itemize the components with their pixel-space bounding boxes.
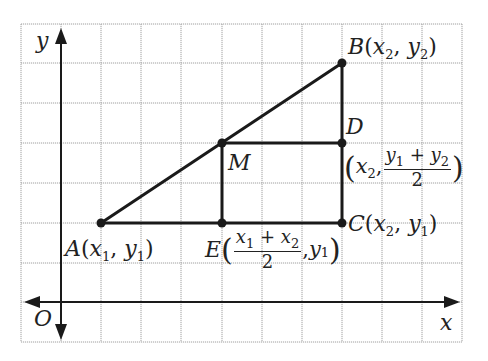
y-axis-label: y bbox=[36, 30, 48, 52]
paren: ( bbox=[344, 150, 356, 185]
var: x bbox=[373, 211, 385, 236]
comma: , bbox=[393, 34, 400, 59]
paren: ) bbox=[145, 236, 154, 261]
paren: ( bbox=[221, 232, 233, 267]
y-axis-arrow-down-icon bbox=[55, 324, 67, 340]
fraction: y1 + y22 bbox=[384, 146, 451, 189]
y-axis-arrow-up-icon bbox=[55, 28, 67, 44]
var: x bbox=[356, 154, 368, 178]
point-B bbox=[338, 59, 347, 68]
x-axis-arrow-right-icon bbox=[444, 296, 460, 308]
subscript: 2 bbox=[368, 166, 376, 181]
label-C: C(x2, y1) bbox=[348, 213, 437, 238]
point-E bbox=[218, 219, 227, 228]
comma: , bbox=[394, 211, 401, 236]
paren: ) bbox=[452, 150, 464, 185]
denominator: 2 bbox=[234, 252, 301, 271]
comma: , bbox=[376, 154, 383, 178]
point-A bbox=[97, 219, 106, 228]
var: y bbox=[309, 237, 321, 261]
subscript: 1 bbox=[321, 245, 329, 260]
label-A: A(x1, y1) bbox=[65, 238, 154, 263]
x-axis-label: x bbox=[440, 312, 452, 334]
label-D-coords: (x2,y1 + y22) bbox=[344, 146, 464, 189]
point-name: A bbox=[65, 236, 81, 261]
comma: , bbox=[110, 236, 117, 261]
paren: ) bbox=[429, 211, 438, 236]
numerator: y1 + y2 bbox=[384, 146, 451, 170]
point-name: C bbox=[348, 211, 365, 236]
origin-label: O bbox=[34, 308, 52, 330]
subscript: 2 bbox=[420, 47, 428, 62]
point-name: E bbox=[205, 237, 221, 262]
var: x bbox=[89, 236, 101, 261]
paren: ) bbox=[329, 232, 341, 267]
fraction: x1 + x22 bbox=[234, 228, 301, 271]
subscript: 1 bbox=[137, 249, 145, 264]
var: y bbox=[407, 34, 419, 59]
label-D: D bbox=[346, 116, 364, 138]
label-M: M bbox=[228, 152, 251, 174]
comma: , bbox=[302, 237, 309, 261]
point-M bbox=[218, 139, 227, 148]
point-C bbox=[338, 219, 347, 228]
label-E: E(x1 + x22,y1) bbox=[205, 228, 341, 271]
subscript: 2 bbox=[386, 224, 394, 239]
subscript: 1 bbox=[102, 249, 110, 264]
var: x bbox=[373, 34, 385, 59]
denominator: 2 bbox=[384, 170, 451, 189]
numerator: x1 + x2 bbox=[234, 228, 301, 252]
paren: ( bbox=[364, 34, 373, 59]
subscript: 1 bbox=[421, 224, 429, 239]
point-name: B bbox=[348, 34, 364, 59]
paren: ) bbox=[428, 34, 437, 59]
var: y bbox=[408, 211, 420, 236]
label-B: B(x2, y2) bbox=[348, 36, 437, 61]
var: y bbox=[124, 236, 136, 261]
